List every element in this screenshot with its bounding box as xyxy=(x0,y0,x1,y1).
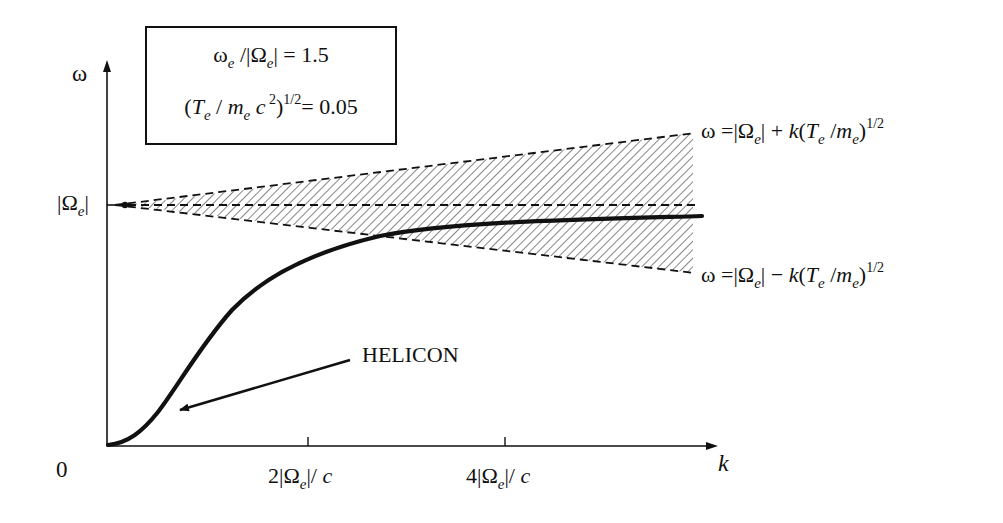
y-axis-label: ω xyxy=(72,62,87,85)
param-value: = 0.05 xyxy=(301,94,357,119)
temperature-symbol: T xyxy=(806,118,818,143)
k-symbol: k xyxy=(789,118,799,143)
slash: / xyxy=(825,118,837,143)
subscript: e xyxy=(204,107,211,123)
temperature-symbol: T xyxy=(192,94,204,119)
helicon-label: HELICON xyxy=(362,344,459,366)
y-axis-arrow-icon xyxy=(103,60,111,72)
subscript: e xyxy=(754,131,761,147)
exponent: 1/2 xyxy=(866,116,884,131)
origin-label: 0 xyxy=(56,458,68,481)
slash: / xyxy=(211,94,228,119)
text: | − xyxy=(761,262,789,287)
text: |/ xyxy=(306,463,322,488)
text: ω =| xyxy=(701,118,738,143)
paren: ( xyxy=(798,118,805,143)
omega-cap-symbol: Ω xyxy=(250,42,266,67)
lower-line-label: ω =|Ωe| − k(Te /me)1/2 xyxy=(701,264,884,286)
subscript: e xyxy=(267,55,274,71)
upper-line-label: ω =|Ωe| + k(Te /me)1/2 xyxy=(701,120,884,142)
param-value: | = 1.5 xyxy=(273,42,328,67)
param-thermal-ratio: (Te / me c 2)1/2= 0.05 xyxy=(147,94,395,120)
x-tick-label-4: 4|Ωe|/ c xyxy=(466,465,530,487)
param-density-ratio: ωe /|Ωe| = 1.5 xyxy=(147,42,395,68)
mass-symbol: m xyxy=(228,94,244,119)
subscript: e xyxy=(754,275,761,291)
subscript: e xyxy=(818,275,825,291)
omega-symbol: ω xyxy=(213,42,227,67)
c-symbol: c xyxy=(250,94,265,119)
omega-cap-symbol: Ω xyxy=(61,190,77,215)
mass-symbol: m xyxy=(836,118,852,143)
subscript: e xyxy=(852,131,859,147)
abs-bar: | xyxy=(84,190,88,215)
subscript: e xyxy=(818,131,825,147)
paren: ( xyxy=(184,94,191,119)
temperature-symbol: T xyxy=(806,262,818,287)
c-symbol: c xyxy=(322,463,332,488)
thermal-spread-region xyxy=(125,133,693,273)
convergence-point xyxy=(122,202,128,208)
omega-cap-symbol: Ω xyxy=(283,463,299,488)
coefficient: 4 xyxy=(466,463,477,488)
slash: / xyxy=(825,262,837,287)
x-axis-arrow-icon xyxy=(706,442,718,450)
exponent: 1/2 xyxy=(866,260,884,275)
y-tick-label-omega-e: |Ωe| xyxy=(57,192,89,214)
subscript: e xyxy=(498,476,505,492)
parameter-box: ωe /|Ωe| = 1.5 (Te / me c 2)1/2= 0.05 xyxy=(145,26,397,145)
omega-cap-symbol: Ω xyxy=(481,463,497,488)
coefficient: 2 xyxy=(268,463,279,488)
superscript: 2 xyxy=(266,92,277,107)
subscript: e xyxy=(244,107,251,123)
x-axis-label: k xyxy=(718,451,729,475)
subscript: e xyxy=(228,55,235,71)
helicon-arrow xyxy=(180,360,350,410)
text: | + xyxy=(761,118,789,143)
x-tick-label-2: 2|Ωe|/ c xyxy=(268,465,332,487)
exponent: 1/2 xyxy=(283,92,301,107)
text: /| xyxy=(234,42,250,67)
omega-cap-symbol: Ω xyxy=(738,262,754,287)
text: |/ xyxy=(504,463,520,488)
paren: ( xyxy=(798,262,805,287)
c-symbol: c xyxy=(520,463,530,488)
omega-cap-symbol: Ω xyxy=(738,118,754,143)
text: ω =| xyxy=(701,262,738,287)
k-symbol: k xyxy=(789,262,799,287)
subscript: e xyxy=(852,275,859,291)
subscript: e xyxy=(300,476,307,492)
mass-symbol: m xyxy=(836,262,852,287)
subscript: e xyxy=(78,203,85,219)
